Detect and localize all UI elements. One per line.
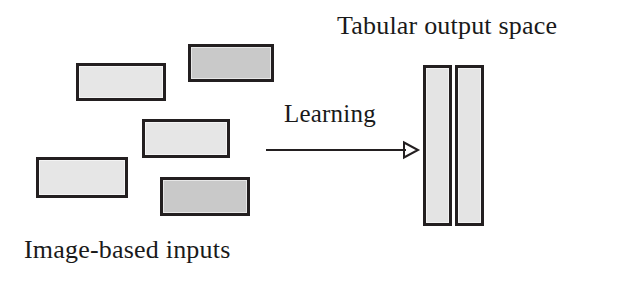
column-right (455, 65, 484, 226)
patch-inner-edge (163, 180, 247, 213)
column-inner-edge (426, 68, 449, 223)
learning-pipeline-diagram: Learning Tabular output space Image-base… (0, 0, 620, 287)
patch-inner-edge (79, 66, 163, 98)
patch-inner-edge (191, 47, 271, 79)
patch-middle (142, 119, 230, 158)
learning-arrow-label: Learning (284, 99, 376, 129)
learning-arrow-icon (264, 138, 422, 162)
patch-upper-left (76, 63, 166, 101)
patch-lower-left (36, 157, 128, 198)
patch-top-right-dark (188, 44, 274, 82)
image-based-inputs-label: Image-based inputs (24, 234, 230, 266)
tabular-output-space-label: Tabular output space (337, 10, 557, 42)
patch-inner-edge (145, 122, 227, 155)
column-left (423, 65, 452, 226)
patch-lower-mid-dark (160, 177, 250, 216)
column-inner-edge (458, 68, 481, 223)
patch-inner-edge (39, 160, 125, 195)
